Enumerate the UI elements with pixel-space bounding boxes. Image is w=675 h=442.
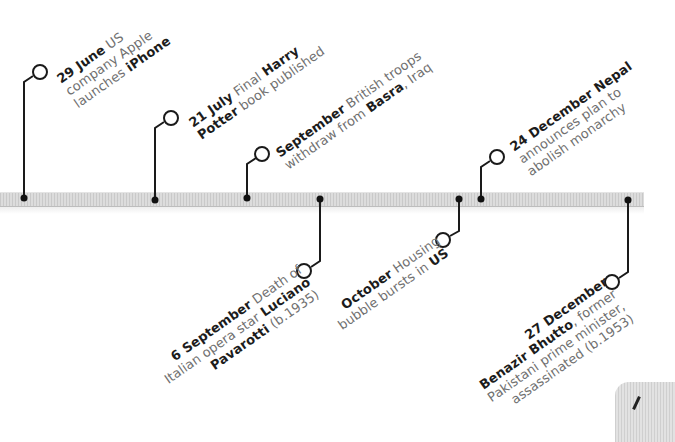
- marker-dot-icon: [317, 196, 324, 203]
- connector-27-december: [605, 197, 632, 290]
- marker-circle-icon: [164, 111, 178, 125]
- marker-dot-icon: [21, 195, 28, 202]
- marker-circle-icon: [255, 147, 269, 161]
- marker-dot-icon: [456, 196, 463, 203]
- marker-dot-icon: [625, 197, 632, 204]
- connector-6-september: [297, 196, 324, 279]
- marker-circle-icon: [33, 65, 47, 79]
- connector-29-june: [21, 65, 48, 202]
- connector-september: [244, 147, 270, 202]
- connector-october: [436, 196, 463, 248]
- connector-24-december: [478, 150, 505, 203]
- marker-dot-icon: [478, 196, 485, 203]
- page-corner-tab: [615, 382, 675, 442]
- marker-dot-icon: [152, 197, 159, 204]
- marker-dot-icon: [244, 195, 251, 202]
- marker-circle-icon: [490, 150, 504, 164]
- connector-21-july: [152, 111, 179, 204]
